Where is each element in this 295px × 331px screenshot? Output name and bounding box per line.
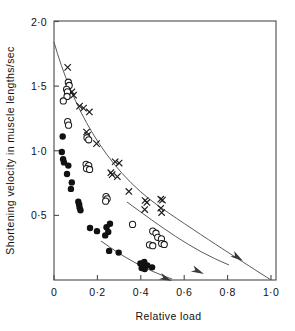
data-point-filled-circle xyxy=(69,179,75,185)
x-tick-label-1: 0·2 xyxy=(89,286,105,298)
data-point-open-circle xyxy=(86,137,92,143)
y-axis-title: Shortening velocity in muscle lengths/se… xyxy=(4,46,16,254)
data-point-filled-circle xyxy=(87,225,93,231)
data-point-open-circle xyxy=(129,221,135,227)
data-point-filled-circle xyxy=(94,228,100,234)
data-point-filled-circle xyxy=(65,162,71,168)
data-point-cross xyxy=(126,188,132,194)
data-point-filled-circle xyxy=(64,171,70,177)
data-point-cross xyxy=(114,173,120,179)
data-point-filled-circle xyxy=(77,207,83,213)
data-point-filled-circle xyxy=(59,133,65,139)
data-point-cross xyxy=(144,199,150,205)
force-velocity-scatter-plot: 00·20·40·60·81·00·51·01·52·0Relative loa… xyxy=(0,0,295,331)
data-point-filled-circle xyxy=(106,248,112,254)
data-point-open-circle xyxy=(161,241,167,247)
data-point-cross xyxy=(142,206,148,212)
data-point-open-circle xyxy=(60,98,66,104)
x-axis-title: Relative load xyxy=(136,310,202,322)
figure-container: 00·20·40·60·81·00·51·01·52·0Relative loa… xyxy=(0,0,295,331)
x-tick-label-4: 0·8 xyxy=(220,286,236,298)
y-tick-label-0: 0·5 xyxy=(31,209,47,221)
data-point-cross xyxy=(109,171,115,177)
data-point-filled-circle xyxy=(142,266,148,272)
x-tick-label-5: 1·0 xyxy=(263,286,279,298)
cross-series xyxy=(64,64,165,216)
data-point-filled-circle xyxy=(107,221,113,227)
y-tick-label-2: 1·5 xyxy=(31,80,47,92)
data-point-filled-circle xyxy=(115,249,121,255)
data-point-filled-circle xyxy=(59,149,65,155)
data-point-cross xyxy=(86,109,92,115)
data-point-cross xyxy=(158,209,164,215)
x-tick-label-3: 0·6 xyxy=(176,286,192,298)
data-point-filled-circle xyxy=(68,186,74,192)
data-point-filled-circle xyxy=(102,232,108,238)
data-point-filled-circle xyxy=(149,264,155,270)
y-tick-label-3: 2·0 xyxy=(31,16,47,28)
y-tick-label-1: 1·0 xyxy=(31,145,47,157)
middle-curve-arrowhead xyxy=(191,265,206,277)
x-tick-label-2: 0·4 xyxy=(133,286,149,298)
data-point-open-circle xyxy=(86,166,92,172)
data-point-open-circle xyxy=(150,243,156,249)
data-point-open-circle xyxy=(103,198,109,204)
x-tick-label-0: 0 xyxy=(51,286,57,298)
data-point-open-circle xyxy=(65,122,71,128)
data-point-cross xyxy=(64,64,70,70)
